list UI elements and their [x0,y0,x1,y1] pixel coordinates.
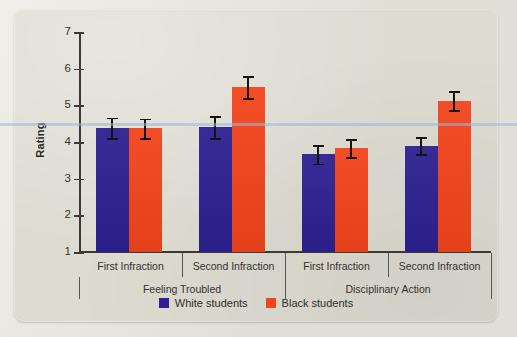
group-label: Feeling Troubled [79,283,285,295]
error-bar [317,145,319,163]
y-tick-label: 7 [54,26,71,38]
error-bar-cap-bottom [313,164,324,166]
category-separator [491,253,492,277]
bar-black-students [438,101,471,252]
y-tick [74,252,84,254]
error-bar-cap-bottom [416,154,427,156]
bar-group-item [199,32,232,252]
error-bar-cap-top [210,116,221,118]
error-bar-cap-top [416,137,427,139]
chart-legend: White studentsBlack students [14,297,498,309]
bar-white-students [199,127,232,252]
bar-black-students [232,87,265,252]
error-bar-cap-bottom [243,98,254,100]
bar-group-item [438,32,471,252]
y-tick-label: 4 [54,136,71,148]
category-label: Second Infraction [388,260,491,272]
error-bar-cap-top [107,118,118,120]
error-bar-cap-bottom [346,157,357,159]
legend-item: Black students [266,297,354,309]
y-tick-label: 3 [54,173,71,185]
legend-label: White students [175,297,248,309]
bar-black-students [129,128,162,252]
y-axis-title: Rating [34,110,46,170]
bar-white-students [302,154,335,252]
bar-group-item [129,32,162,252]
y-tick-label: 1 [54,246,71,258]
group-separator [491,277,492,299]
group-label: Disciplinary Action [285,283,491,295]
error-bar-cap-bottom [449,110,460,112]
error-bar-cap-bottom [107,138,118,140]
error-bar [247,76,249,98]
bar-white-students [405,146,438,252]
error-bar [111,118,113,139]
category-label: Second Infraction [182,260,285,272]
bar-chart: Rating 7654321 First InfractionSecond In… [14,9,498,322]
square-swatch-navy [159,298,169,308]
error-bar [144,119,146,139]
error-bar-cap-top [140,119,151,121]
category-separator [182,253,183,277]
error-bar [350,139,352,157]
category-label: First Infraction [285,260,388,272]
group-separator [285,277,286,299]
bar-group-item [302,32,335,252]
group-separator [79,277,80,299]
category-separator [285,253,286,277]
bar-black-students [335,148,368,252]
legend-item: White students [159,297,248,309]
y-tick-label: 6 [54,63,71,75]
bars-area [79,32,491,252]
bar-group-item [335,32,368,252]
error-bar-cap-bottom [210,138,221,140]
error-bar [420,137,422,154]
legend-label: Black students [282,297,354,309]
error-bar-cap-top [346,139,357,141]
square-swatch-red [266,298,276,308]
bar-group-item [96,32,129,252]
error-bar-cap-bottom [140,138,151,140]
error-bar-cap-top [449,91,460,93]
error-bar [214,116,216,138]
error-bar-cap-top [243,76,254,78]
category-label: First Infraction [79,260,182,272]
bar-group-item [232,32,265,252]
error-bar [453,91,455,110]
bar-group-item [405,32,438,252]
category-separator [388,253,389,277]
bar-white-students [96,128,129,252]
error-bar-cap-top [313,145,324,147]
y-tick-label: 5 [54,99,71,111]
y-tick-label: 2 [54,209,71,221]
scanned-page-background: Rating 7654321 First InfractionSecond In… [0,0,517,337]
